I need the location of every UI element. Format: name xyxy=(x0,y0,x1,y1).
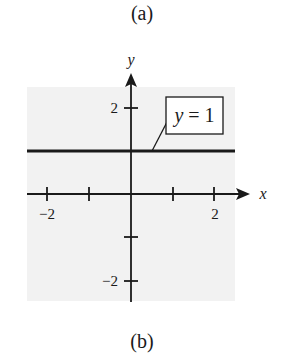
chart-figure: −2 2 2 −2 x y y = 1 xyxy=(0,0,284,364)
y-tick-label-pos2: 2 xyxy=(111,100,119,116)
caption-b: (b) xyxy=(0,330,284,353)
annotation-label: y = 1 xyxy=(172,104,214,127)
x-axis-label: x xyxy=(258,185,266,202)
y-tick-label-neg2: −2 xyxy=(102,273,118,289)
x-tick-label-neg2: −2 xyxy=(39,206,55,222)
x-tick-label-pos2: 2 xyxy=(211,206,219,222)
y-axis-label: y xyxy=(125,51,135,69)
